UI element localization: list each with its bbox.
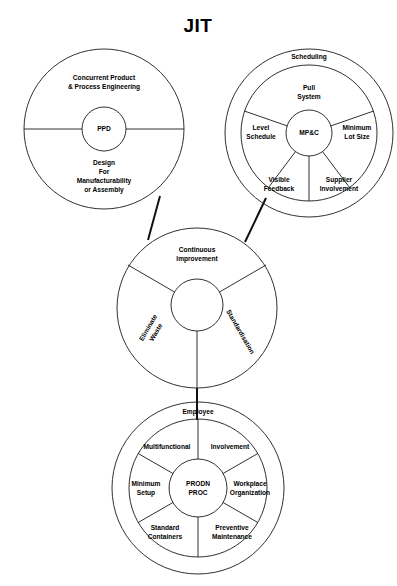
- ppd-core-label: PPD: [97, 125, 111, 132]
- prodn-core-label-line2: PROC: [188, 489, 207, 496]
- mpc-sector-level-line1: Level: [253, 124, 270, 131]
- wheel-continuous-improvement: Continuous Improvement Eliminate Waste S…: [117, 228, 277, 388]
- continuous-spoke-upper-left: [128, 265, 175, 292]
- prodn-core-label-line1: PRODN: [186, 480, 210, 487]
- prodn-sector-multifunctional-label: Multifunctional: [144, 443, 191, 450]
- connector-ppd-to-continuous: [148, 196, 160, 240]
- mpc-sector-minlot-line1: Minimum: [343, 124, 372, 131]
- prodn-sector-standard-line2: Containers: [148, 533, 183, 540]
- ppd-sector-design-line2: For: [99, 168, 110, 175]
- prodn-spoke-lower-left: [138, 503, 173, 523]
- ppd-sector-design-line4: or Assembly: [84, 186, 124, 194]
- diagram-canvas: JIT PPD Concurrent Product & Process Eng…: [0, 0, 397, 586]
- jit-diagram: JIT PPD Concurrent Product & Process Eng…: [0, 0, 397, 586]
- continuous-core-circle: [171, 279, 223, 331]
- prodn-ring-label: Employee: [182, 408, 213, 416]
- ppd-sector-concurrent-line1: Concurrent Product: [73, 74, 136, 81]
- page-title: JIT: [184, 15, 213, 36]
- prodn-spoke-upper-left: [138, 454, 173, 474]
- wheel-mpc: Scheduling MP&C Pull System Minimum Lot …: [225, 49, 393, 217]
- prodn-sector-workplace-line2: Organization: [230, 489, 270, 497]
- continuous-sector-standardisation-label: Standardisation: [225, 308, 256, 355]
- ppd-sector-concurrent-line2: & Process Engineering: [68, 83, 140, 91]
- mpc-sector-visible-line1: Visible: [268, 176, 289, 183]
- continuous-sector-top-line1: Continuous: [179, 246, 216, 253]
- prodn-sector-workplace-line1: Workplace: [233, 480, 267, 488]
- mpc-core-label: MP&C: [299, 129, 319, 136]
- connector-group: [148, 196, 266, 420]
- mpc-ring-label: Scheduling: [291, 53, 327, 61]
- wheel-prodn-proc: Employee PRODN PROC Multifunctional Invo…: [112, 402, 284, 574]
- prodn-sector-involvement-label: Involvement: [211, 443, 250, 450]
- prodn-sector-standard-line1: Standard: [151, 524, 180, 531]
- continuous-sector-top-line2: Improvement: [176, 255, 218, 263]
- prodn-spoke-upper-right: [223, 454, 258, 474]
- mpc-sector-level-line2: Schedule: [246, 133, 276, 140]
- mpc-sector-supplier-line1: Supplier: [326, 176, 353, 184]
- mpc-sector-minlot-line2: Lot Size: [344, 133, 370, 140]
- mpc-sector-visible-line2: Feedback: [264, 185, 295, 192]
- wheel-ppd: PPD Concurrent Product & Process Enginee…: [24, 49, 184, 209]
- prodn-sector-minsetup-line2: Setup: [137, 489, 155, 497]
- prodn-sector-preventive-line2: Maintenance: [212, 533, 252, 540]
- mpc-sector-supplier-line2: Involvement: [320, 185, 359, 192]
- ppd-sector-design-line1: Design: [93, 159, 115, 167]
- ppd-sector-design-line3: Manufacturability: [77, 177, 132, 185]
- mpc-sector-pull-line2: System: [297, 93, 321, 101]
- mpc-sector-pull-line1: Pull: [303, 84, 315, 91]
- prodn-spoke-lower-right: [223, 503, 258, 523]
- connector-mpc-to-continuous: [245, 198, 266, 242]
- continuous-spoke-upper-right: [220, 265, 267, 292]
- prodn-sector-preventive-line1: Preventive: [215, 524, 249, 531]
- prodn-sector-minsetup-line1: Minimum: [132, 480, 161, 487]
